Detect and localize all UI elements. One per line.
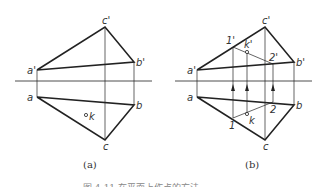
label-k: k bbox=[89, 111, 96, 122]
figure-b-labels: a' c' b' 1' k' 2' a b c 1 k 2 (b) bbox=[187, 15, 305, 170]
point-k-prime bbox=[245, 50, 248, 53]
label-b: b bbox=[296, 100, 302, 111]
label-k: k bbox=[249, 115, 256, 126]
point-k bbox=[84, 113, 87, 116]
figure-a bbox=[15, 27, 152, 140]
auxiliary-line-front bbox=[233, 47, 273, 64]
label-b-prime: b' bbox=[136, 57, 145, 68]
label-c-prime: c' bbox=[102, 15, 110, 26]
label-c: c bbox=[103, 141, 109, 152]
label-a-prime: a' bbox=[27, 65, 36, 76]
label-c-prime: c' bbox=[262, 15, 270, 26]
label-a: a bbox=[187, 92, 193, 103]
label-a: a bbox=[27, 92, 33, 103]
label-b: b bbox=[136, 100, 142, 111]
label-1-prime: 1' bbox=[226, 35, 235, 46]
caption-b: (b) bbox=[245, 159, 259, 170]
arrows bbox=[231, 84, 275, 91]
label-b-prime: b' bbox=[296, 57, 305, 68]
figure-caption: 图 4-11 在平面上作点的方法 bbox=[83, 182, 199, 187]
label-a-prime: a' bbox=[187, 65, 196, 76]
top-view-triangle bbox=[197, 97, 294, 140]
label-2-prime: 2' bbox=[269, 52, 278, 63]
arrow-up-icon bbox=[271, 84, 275, 91]
label-1: 1 bbox=[229, 120, 235, 131]
caption-a: (a) bbox=[83, 159, 97, 170]
projection-diagram: a' c' b' a b c k (a) a' c' b' 1' k' bbox=[0, 0, 323, 187]
front-view-triangle bbox=[37, 27, 134, 70]
label-c: c bbox=[263, 141, 269, 152]
arrow-up-icon bbox=[231, 84, 235, 91]
top-view-triangle bbox=[37, 97, 134, 140]
arrow-up-icon bbox=[245, 84, 249, 91]
label-2: 2 bbox=[270, 104, 276, 115]
label-k-prime: k' bbox=[244, 39, 253, 50]
